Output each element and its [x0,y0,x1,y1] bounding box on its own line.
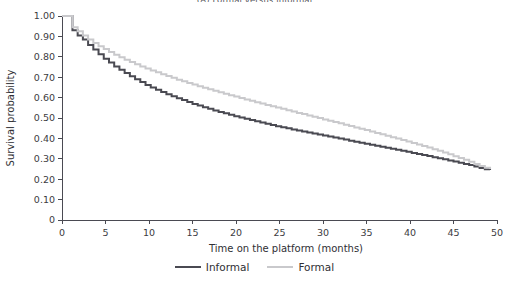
y-tick-label: 0.40 [34,133,55,144]
legend-line-icon [175,266,201,268]
y-tick-label: 0.80 [34,51,55,62]
x-tick-label: 10 [143,227,155,238]
legend-label: Formal [298,262,334,273]
y-tick-label: 0.70 [34,72,55,83]
x-tick-label: 35 [360,227,372,238]
y-tick-label: 1.00 [34,10,55,21]
x-tick-label: 45 [447,227,459,238]
y-tick-label: 0.50 [34,112,55,123]
x-tick-label: 5 [102,227,108,238]
survival-chart-figure: (A) Formal versus informal 00.100.200.30… [0,0,509,287]
x-tick-label: 15 [186,227,198,238]
legend-item-informal[interactable]: Informal [175,262,250,273]
legend-item-formal[interactable]: Formal [267,262,334,273]
x-tick-label: 25 [273,227,285,238]
x-tick-label: 0 [59,227,65,238]
x-tick-label: 40 [404,227,416,238]
x-axis: 05101520253035404550 [59,220,503,238]
survival-curve-formal [62,16,490,169]
y-axis-title: Survival probability [5,69,16,166]
y-tick-label: 0.20 [34,174,55,185]
x-tick-label: 50 [491,227,503,238]
plot-area: 00.100.200.300.400.500.600.700.800.901.0… [0,0,509,287]
y-tick-label: 0.60 [34,92,55,103]
x-axis-title: Time on the platform (months) [208,243,363,254]
survival-curves [62,16,490,170]
legend-label: Informal [206,262,250,273]
x-tick-label: 20 [230,227,242,238]
y-tick-label: 0 [49,214,55,225]
y-tick-label: 0.30 [34,153,55,164]
legend-line-icon [267,266,293,268]
y-tick-label: 0.10 [34,194,55,205]
y-tick-label: 0.90 [34,31,55,42]
y-axis: 00.100.200.300.400.500.600.700.800.901.0… [34,10,62,225]
chart-legend: InformalFormal [0,262,509,273]
x-tick-label: 30 [317,227,329,238]
